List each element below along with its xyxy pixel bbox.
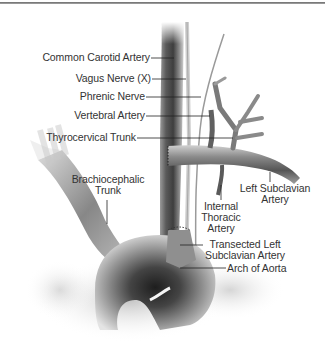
label-brachiocephalic-line2: Trunk — [68, 185, 148, 196]
thyrocervical-trunk-vessel — [215, 78, 262, 148]
anatomy-figure: Common Carotid Artery Vagus Nerve (X) Ph… — [0, 0, 325, 351]
label-vagus-nerve: Vagus Nerve (X) — [76, 73, 151, 84]
label-thyrocervical-trunk: Thyrocervical Trunk — [46, 132, 136, 143]
vertebral-artery-vessel — [210, 110, 212, 148]
aortic-arch-vessel — [95, 235, 215, 330]
label-vertebral-artery: Vertebral Artery — [74, 110, 145, 121]
label-phrenic-nerve: Phrenic Nerve — [80, 91, 145, 102]
internal-thoracic-artery-vessel — [218, 165, 222, 195]
label-internal-thoracic-line3: Artery — [196, 223, 246, 234]
label-arch-of-aorta: Arch of Aorta — [227, 263, 286, 274]
label-transected-line2: Subclavian Artery — [200, 250, 290, 261]
label-common-carotid-artery: Common Carotid Artery — [42, 52, 150, 63]
transected-left-subclavian-stump — [166, 227, 196, 268]
